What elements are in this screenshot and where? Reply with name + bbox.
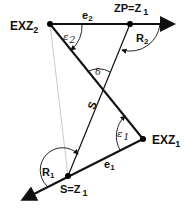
s-point bbox=[65, 173, 71, 179]
exz2-point bbox=[47, 21, 53, 27]
r2-label: R2 bbox=[136, 32, 149, 46]
zp-label: ZP=Z1 bbox=[114, 2, 148, 17]
e2-label: e2 bbox=[82, 9, 93, 23]
delta-label: δ bbox=[95, 67, 100, 77]
exz2-label: EXZ2 bbox=[10, 19, 38, 35]
geometry-diagram: EXZ2 ZP=Z1 EXZ1 S=Z1 e2 ε2 R2 δ S ε1 e1 … bbox=[0, 0, 194, 209]
auxiliary-line bbox=[50, 24, 68, 176]
s-label: S=Z1 bbox=[60, 183, 88, 198]
zp-point bbox=[127, 21, 133, 27]
exz1-label: EXZ1 bbox=[152, 133, 180, 149]
r1-label: R1 bbox=[42, 166, 55, 180]
eps1-label: ε1 bbox=[117, 128, 129, 142]
e1-label: e1 bbox=[104, 158, 115, 172]
s-line-label: S bbox=[85, 100, 99, 111]
exz1-point bbox=[140, 136, 146, 142]
